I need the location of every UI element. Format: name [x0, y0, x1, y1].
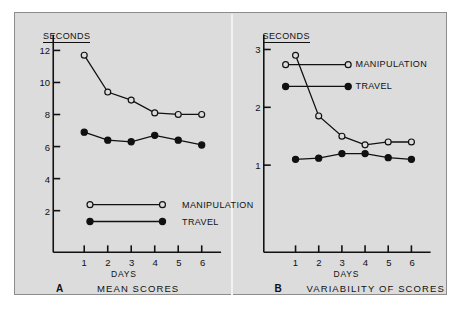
x-axis-tick-label: 3: [335, 258, 349, 268]
data-point-travel: [315, 155, 321, 161]
legend-marker-manipulation: [345, 62, 351, 68]
panel-letter-a: A: [56, 283, 63, 294]
data-point-manipulation: [292, 52, 298, 58]
y-axis-tick-label: 10: [34, 78, 50, 88]
legend-marker-manipulation: [87, 202, 93, 208]
data-point-manipulation: [338, 133, 344, 139]
series-line-travel: [295, 154, 411, 160]
legend-marker-travel: [159, 218, 165, 224]
data-point-manipulation: [128, 97, 134, 103]
data-point-travel: [408, 156, 414, 162]
data-point-travel: [152, 132, 158, 138]
chart-panel-b: SECONDS DAYS B VARIABILITY OF SCORES MAN…: [231, 13, 447, 294]
x-axis-title-b: DAYS: [334, 269, 360, 279]
legend-label-travel-a: TRAVEL: [182, 217, 219, 227]
data-point-travel: [292, 156, 298, 162]
y-axis-tick-label: 2: [245, 103, 261, 113]
legend-label-travel-b: TRAVEL: [356, 81, 393, 91]
y-axis-tick-label: 6: [34, 143, 50, 153]
data-point-manipulation: [199, 111, 205, 117]
x-axis-tick-label: 2: [312, 258, 326, 268]
legend-marker-travel: [282, 83, 288, 89]
data-point-travel: [175, 137, 181, 143]
x-axis-tick-label: 5: [382, 258, 396, 268]
data-point-manipulation: [81, 52, 87, 58]
x-axis-tick-label: 3: [125, 258, 139, 268]
x-axis-tick-label: 4: [359, 258, 373, 268]
data-point-travel: [361, 151, 367, 157]
legend-marker-travel: [87, 218, 93, 224]
chart-panel-a: SECONDS DAYS A MEAN SCORES MANIPULATION …: [15, 13, 231, 294]
panel-caption-a: MEAN SCORES: [97, 283, 179, 294]
data-point-manipulation: [105, 89, 111, 95]
data-point-manipulation: [362, 142, 368, 148]
data-point-manipulation: [152, 110, 158, 116]
y-axis-tick-label: 1: [245, 161, 261, 171]
legend-marker-travel: [345, 83, 351, 89]
series-line-manipulation: [84, 55, 201, 114]
data-point-travel: [128, 139, 134, 145]
panel-caption-b: VARIABILITY OF SCORES: [307, 283, 445, 294]
data-point-travel: [81, 129, 87, 135]
series-line-travel: [84, 132, 201, 145]
x-axis-tick-label: 5: [172, 258, 186, 268]
x-axis-tick-label: 6: [196, 258, 210, 268]
data-point-travel: [338, 151, 344, 157]
data-point-manipulation: [315, 113, 321, 119]
panel-letter-b: B: [275, 283, 282, 294]
y-axis-tick-label: 3: [245, 45, 261, 55]
data-point-manipulation: [385, 139, 391, 145]
data-point-travel: [199, 142, 205, 148]
data-point-travel: [105, 137, 111, 143]
plot-area-b: [231, 13, 447, 294]
x-axis-tick-label: 2: [101, 258, 115, 268]
y-axis-tick-label: 4: [34, 175, 50, 185]
y-axis-tick-label: 8: [34, 110, 50, 120]
figure-frame: SECONDS DAYS A MEAN SCORES MANIPULATION …: [14, 12, 447, 295]
x-axis-tick-label: 4: [148, 258, 162, 268]
y-axis-tick-label: 12: [34, 46, 50, 56]
x-axis-tick-label: 1: [289, 258, 303, 268]
legend-marker-manipulation: [159, 202, 165, 208]
data-point-manipulation: [175, 111, 181, 117]
data-point-travel: [385, 155, 391, 161]
x-axis-tick-label: 1: [77, 258, 91, 268]
x-axis-title-a: DAYS: [111, 269, 137, 279]
x-axis-tick-label: 6: [405, 258, 419, 268]
legend-marker-manipulation: [282, 62, 288, 68]
data-point-manipulation: [408, 139, 414, 145]
y-axis-tick-label: 2: [34, 207, 50, 217]
legend-label-manipulation-b: MANIPULATION: [356, 59, 428, 69]
